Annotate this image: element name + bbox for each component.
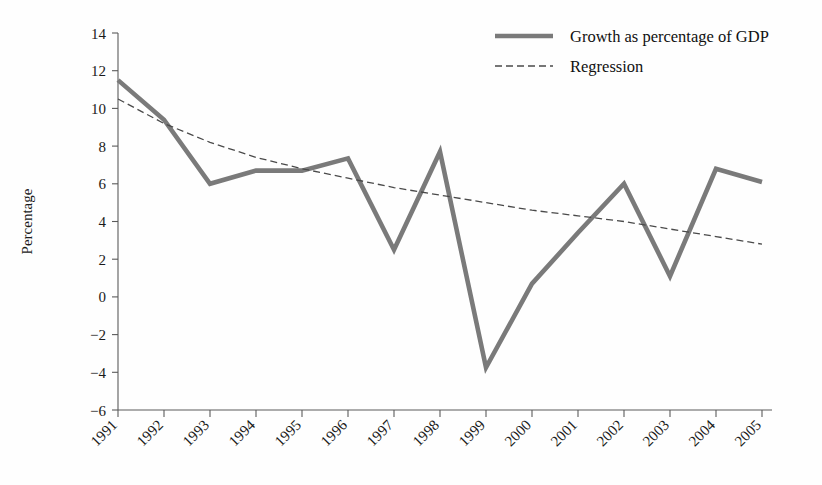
y-tick-label: 6: [99, 176, 107, 192]
y-tick-label: 0: [99, 289, 107, 305]
x-tick-label: 1996: [318, 416, 351, 449]
line-chart-canvas: −6−4−202468101214 1991199219931994199519…: [0, 0, 822, 485]
legend-label-regression[interactable]: Regression: [570, 57, 643, 76]
y-tick-label: 10: [91, 101, 106, 117]
y-tick-label: −4: [90, 365, 106, 381]
chart-figure: −6−4−202468101214 1991199219931994199519…: [0, 0, 822, 485]
y-tick-label: 8: [99, 139, 107, 155]
x-tick-label: 1992: [134, 417, 167, 450]
x-tick-label: 1993: [180, 417, 213, 450]
x-tick-label: 2005: [732, 417, 765, 450]
series-regression-line: [118, 99, 762, 244]
x-axis-ticks: 1991199219931994199519961997199819992000…: [88, 410, 765, 449]
y-tick-label: 4: [99, 214, 107, 230]
x-tick-label: 1991: [88, 417, 121, 450]
x-tick-label: 1997: [364, 416, 397, 449]
axis-layer: [118, 33, 772, 410]
y-tick-label: −6: [90, 403, 106, 419]
y-tick-label: 12: [91, 63, 106, 79]
data-series-layer: [118, 80, 762, 367]
x-tick-label: 2004: [686, 416, 719, 449]
y-tick-label: 2: [99, 252, 107, 268]
chart-legend[interactable]: Growth as percentage of GDPRegression: [495, 27, 769, 76]
x-tick-label: 2000: [502, 417, 535, 450]
x-tick-label: 2001: [548, 417, 581, 450]
x-tick-label: 2003: [640, 417, 673, 450]
legend-label-growth[interactable]: Growth as percentage of GDP: [570, 27, 769, 46]
x-tick-label: 1999: [456, 417, 489, 450]
series-growth-line: [118, 80, 762, 367]
y-tick-label: −2: [90, 327, 106, 343]
x-tick-label: 1998: [410, 417, 443, 450]
x-tick-label: 2002: [594, 417, 627, 450]
y-axis-title: Percentage: [19, 188, 35, 254]
x-tick-label: 1995: [272, 417, 305, 450]
x-tick-label: 1994: [226, 416, 259, 449]
y-tick-label: 14: [91, 26, 107, 42]
y-axis-title-text: Percentage: [19, 188, 35, 254]
y-axis-ticks: −6−4−202468101214: [90, 26, 118, 419]
